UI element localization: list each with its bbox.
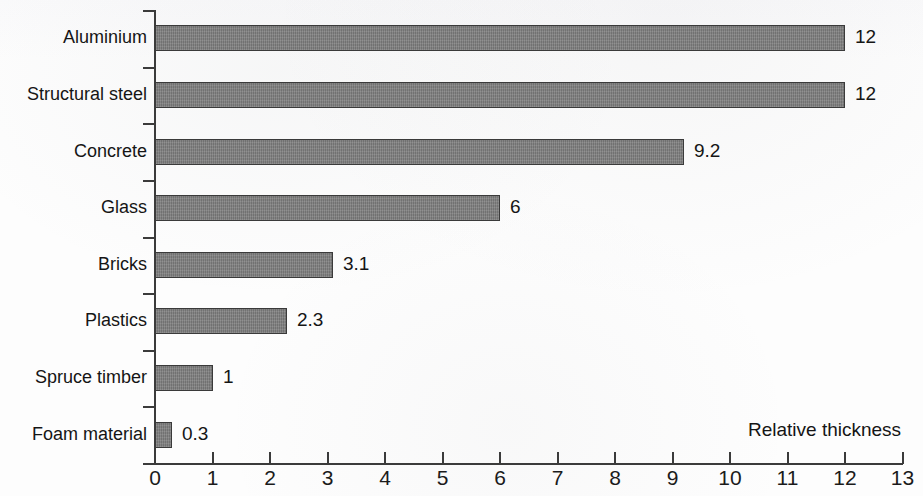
x-axis-tick	[787, 452, 789, 464]
chart-page: 012345678910111213 AluminiumStructural s…	[0, 0, 923, 496]
y-axis-tick	[143, 67, 155, 69]
x-axis-tick	[672, 452, 674, 464]
bar	[155, 25, 845, 51]
x-axis-tick	[499, 452, 501, 464]
y-axis-category-label: Aluminium	[0, 27, 147, 48]
x-axis-tick-label: 8	[595, 466, 635, 490]
y-axis-tick	[143, 180, 155, 182]
bar-value-label: 3.1	[343, 253, 369, 275]
x-axis-tick	[844, 452, 846, 464]
y-axis-tick	[143, 350, 155, 352]
y-axis-category-label: Spruce timber	[0, 367, 147, 388]
y-axis-category-label: Foam material	[0, 424, 147, 445]
x-axis-tick-label: 4	[365, 466, 405, 490]
x-axis-tick	[729, 452, 731, 464]
x-axis-tick	[442, 452, 444, 464]
x-axis-tick-label: 5	[423, 466, 463, 490]
y-axis-category-label: Glass	[0, 197, 147, 218]
bar	[155, 195, 500, 221]
x-axis-tick	[154, 448, 156, 464]
x-axis-tick-label: 11	[768, 466, 808, 490]
bar	[155, 82, 845, 108]
y-axis-tick	[143, 406, 155, 408]
bar-value-label: 1	[223, 366, 234, 388]
x-axis-tick-label: 7	[538, 466, 578, 490]
x-axis-tick-label: 13	[883, 466, 923, 490]
x-axis-tick	[212, 452, 214, 464]
bar	[155, 252, 333, 278]
bar-value-label: 6	[510, 196, 521, 218]
x-axis-tick-label: 3	[308, 466, 348, 490]
bar	[155, 422, 172, 448]
y-axis-tick	[143, 123, 155, 125]
x-axis-title: Relative thickness	[748, 419, 901, 441]
y-axis-tick	[143, 10, 155, 12]
bar-value-label: 9.2	[694, 140, 720, 162]
x-axis-tick-label: 6	[480, 466, 520, 490]
bar	[155, 308, 287, 334]
x-axis-tick	[614, 452, 616, 464]
y-axis-category-label: Plastics	[0, 310, 147, 331]
x-axis-tick	[902, 452, 904, 464]
x-axis-tick-label: 1	[193, 466, 233, 490]
bar-value-label: 0.3	[182, 423, 208, 445]
x-axis-tick-label: 9	[653, 466, 693, 490]
x-axis-tick	[269, 452, 271, 464]
x-axis-tick-label: 2	[250, 466, 290, 490]
x-axis-tick-label: 10	[710, 466, 750, 490]
y-axis-tick	[143, 293, 155, 295]
x-axis-line	[154, 463, 903, 465]
y-axis-category-label: Structural steel	[0, 84, 147, 105]
y-axis-category-label: Concrete	[0, 141, 147, 162]
x-axis-tick-label: 12	[825, 466, 865, 490]
x-axis-tick-label: 0	[135, 466, 175, 490]
bar	[155, 365, 213, 391]
bar-value-label: 2.3	[297, 309, 323, 331]
y-axis-category-label: Bricks	[0, 254, 147, 275]
x-axis-tick	[327, 452, 329, 464]
bar-value-label: 12	[855, 26, 876, 48]
x-axis-tick	[384, 452, 386, 464]
x-axis-tick	[557, 452, 559, 464]
bar-chart-plot-area: 012345678910111213 AluminiumStructural s…	[0, 0, 923, 496]
y-axis-tick	[143, 237, 155, 239]
bar-value-label: 12	[855, 83, 876, 105]
bar	[155, 139, 684, 165]
